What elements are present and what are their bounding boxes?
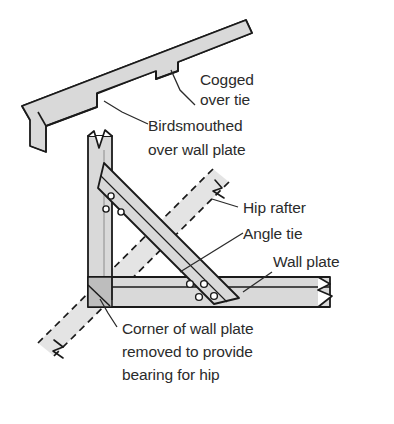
label-corner-line1: Corner of wall plate	[122, 320, 254, 337]
figure-root: Cogged over tie Birdsmouthed over wall p…	[0, 0, 394, 424]
label-wall-plate: Wall plate	[273, 253, 339, 270]
label-corner-line2: removed to provide	[122, 343, 253, 360]
label-hip-rafter: Hip rafter	[243, 199, 306, 216]
wall-plate-return-leg	[88, 130, 112, 300]
bolt-hole	[211, 293, 218, 300]
bolt-hole	[103, 206, 109, 212]
label-cogged-line1: Cogged	[200, 71, 254, 88]
leader-hip-rafter	[212, 199, 238, 207]
bolt-hole	[196, 294, 203, 301]
bolt-hole	[118, 209, 124, 215]
hip-rafter-detail-diagram: Cogged over tie Birdsmouthed over wall p…	[0, 0, 394, 424]
label-birdsmouthed-line1: Birdsmouthed	[148, 117, 242, 134]
wall-plate-return-body	[88, 136, 112, 300]
label-corner-line3: bearing for hip	[122, 366, 220, 383]
bolt-hole	[201, 281, 208, 288]
leader-birdsmouthed	[104, 101, 148, 124]
label-angle-tie: Angle tie	[243, 225, 302, 242]
bolt-hole	[108, 193, 114, 199]
label-birdsmouthed-line2: over wall plate	[148, 141, 246, 158]
bearing-corner-cut	[88, 277, 112, 307]
bearing-corner-face	[88, 277, 112, 307]
bolt-hole	[187, 281, 194, 288]
label-cogged-line2: over tie	[200, 91, 250, 108]
leader-cogged	[171, 70, 195, 105]
